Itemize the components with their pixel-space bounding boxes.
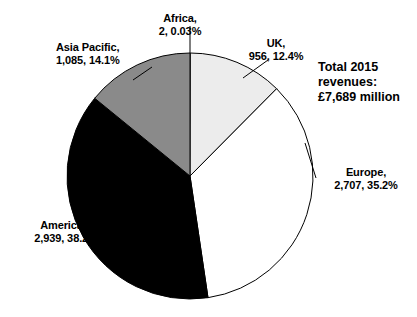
total-annotation-line1: Total 2015	[318, 60, 417, 75]
slice-label-asia-pacific-line1: Asia Pacific,	[56, 41, 176, 54]
slice-label-africa-line2: 2, 0.03%	[128, 25, 232, 38]
slice-label-uk-line2: 956, 12.4%	[232, 50, 320, 63]
slice-label-europe-line2: 2,707, 35.2%	[318, 179, 414, 192]
slice-label-asia-pacific: Asia Pacific, 1,085, 14.1%	[56, 41, 176, 66]
pie-slices-group	[67, 53, 313, 299]
slice-label-americas-line2: 2,939, 38.2%	[14, 232, 118, 245]
total-revenues-annotation: Total 2015 revenues: £7,689 million	[318, 60, 417, 105]
pie-chart-figure: Africa, 2, 0.03% Asia Pacific, 1,085, 14…	[0, 0, 417, 317]
total-annotation-line3: £7,689 million	[318, 90, 417, 105]
slice-label-americas: Americas, 2,939, 38.2%	[14, 219, 118, 244]
slice-label-africa: Africa, 2, 0.03%	[128, 12, 232, 37]
total-annotation-line2: revenues:	[318, 75, 417, 90]
slice-label-europe-line1: Europe,	[318, 166, 414, 179]
slice-label-uk-line1: UK,	[232, 37, 320, 50]
slice-label-uk: UK, 956, 12.4%	[232, 37, 320, 62]
slice-label-europe: Europe, 2,707, 35.2%	[318, 166, 414, 191]
slice-label-africa-line1: Africa,	[128, 12, 232, 25]
slice-label-americas-line1: Americas,	[14, 219, 118, 232]
slice-label-asia-pacific-line2: 1,085, 14.1%	[56, 54, 176, 67]
